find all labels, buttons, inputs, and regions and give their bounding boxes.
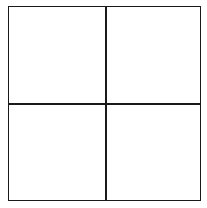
grid-cell-top-left <box>9 7 105 103</box>
two-by-two-grid <box>8 6 201 201</box>
grid-cell-bottom-right <box>107 105 200 200</box>
grid-cell-top-right <box>107 7 200 103</box>
grid-cell-bottom-left <box>9 105 105 200</box>
horizontal-divider <box>9 103 200 105</box>
